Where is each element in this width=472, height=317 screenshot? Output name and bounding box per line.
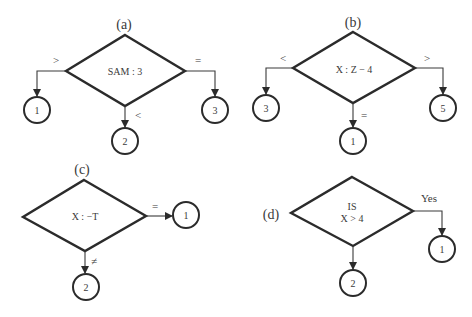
branch-bottom-symbol: = [361, 109, 367, 121]
panel-d: (d) IS X > 4 Yes 1 2 [263, 177, 455, 296]
connector-number: 2 [351, 278, 356, 289]
branch-right-arrow [415, 68, 443, 94]
branch-right-symbol: Yes [421, 192, 437, 204]
panel-c: (c) X : −T = 1 ≠ 2 [23, 162, 199, 300]
connector-number: 1 [440, 244, 445, 255]
branch-left-symbol: > [53, 54, 59, 66]
decision-condition-line2: X > 4 [341, 213, 364, 224]
branch-right-arrow [185, 71, 215, 96]
branch-bottom-symbol: ≠ [91, 255, 97, 267]
panel-label: (a) [116, 17, 132, 33]
decision-condition-line1: IS [348, 201, 357, 212]
panel-label: (d) [263, 207, 280, 223]
branch-right-symbol: = [195, 54, 201, 66]
panel-label: (b) [345, 15, 362, 31]
decision-condition: X : Z − 4 [336, 64, 373, 75]
connector-number: 1 [35, 105, 40, 116]
panel-label: (c) [74, 162, 90, 178]
decision-condition: SAM : 3 [108, 66, 142, 77]
branch-right-arrow [413, 211, 442, 235]
connector-number: 3 [213, 105, 218, 116]
branch-left-arrow [37, 71, 66, 96]
decision-condition: X : −T [72, 211, 99, 222]
panel-a: (a) SAM : 3 > 1 < 2 = 3 [24, 17, 228, 154]
branch-right-symbol: = [152, 200, 158, 212]
branch-right-symbol: > [424, 52, 430, 64]
connector-number: 2 [123, 136, 128, 147]
flowchart-canvas: (a) SAM : 3 > 1 < 2 = 3 (b) X : Z − 4 < … [0, 0, 472, 317]
connector-number: 2 [84, 282, 89, 293]
branch-left-arrow [266, 68, 293, 94]
panel-b: (b) X : Z − 4 < 3 = 1 > 5 [253, 15, 456, 154]
connector-number: 3 [264, 103, 269, 114]
branch-bottom-symbol: < [135, 109, 141, 121]
connector-number: 5 [441, 103, 446, 114]
connector-number: 1 [351, 136, 356, 147]
connector-number: 1 [184, 210, 189, 221]
branch-left-symbol: < [280, 52, 286, 64]
